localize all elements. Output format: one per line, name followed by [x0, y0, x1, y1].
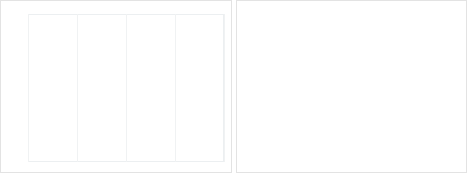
- gridline-x-100: [126, 14, 127, 162]
- gridline-x-120: [224, 14, 225, 162]
- gridline-x-80: [28, 14, 29, 162]
- y-axis-labels-left: [1, 1, 27, 172]
- figure-two-panel-theta-charts: [0, 0, 469, 173]
- chart-panel-right: [236, 0, 467, 173]
- curves-right: [237, 1, 469, 151]
- chart-panel-left: [0, 0, 232, 173]
- gridline-x-90: [77, 14, 78, 162]
- gridline-x-110: [175, 14, 176, 162]
